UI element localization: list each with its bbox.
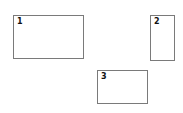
- box-1[interactable]: 1: [13, 15, 84, 59]
- box-3-label: 3: [101, 73, 107, 81]
- box-2[interactable]: 2: [150, 15, 175, 61]
- box-3[interactable]: 3: [97, 70, 148, 104]
- box-1-label: 1: [17, 18, 23, 26]
- box-2-label: 2: [154, 18, 160, 26]
